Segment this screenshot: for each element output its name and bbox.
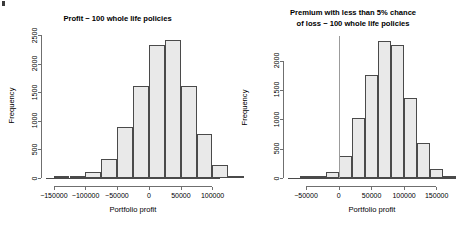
x-axis-tick <box>181 187 182 190</box>
histogram-bar <box>101 159 117 178</box>
histogram-bar <box>430 169 443 178</box>
y-axis-tick-label: 2000 <box>31 56 38 72</box>
y-axis-tick-label: 1500 <box>273 82 280 98</box>
y-axis-tick <box>38 149 41 150</box>
x-axis-tick <box>212 187 213 190</box>
plot-area-premium: 0500100015002000−50000050000100000150000 <box>288 36 456 178</box>
histogram-bar <box>133 86 149 178</box>
histogram-bar <box>391 45 404 178</box>
histogram-bar <box>181 86 197 178</box>
y-axis-tick-label: 2000 <box>273 53 280 69</box>
x-axis-tick-label: 0 <box>147 192 151 199</box>
x-axis-tick <box>306 187 307 190</box>
x-axis-tick-label: −150000 <box>40 192 67 199</box>
x-axis-tick-label: 100000 <box>201 192 224 199</box>
histogram-bar <box>165 40 181 178</box>
chart-title-premium-line1: Premium with less than 5% chance <box>235 8 471 18</box>
histogram-bar <box>352 118 365 178</box>
y-axis-tick-label: 1000 <box>273 112 280 128</box>
y-axis-tick-label: 2500 <box>31 28 38 44</box>
y-axis-tick <box>38 64 41 65</box>
x-axis-tick <box>404 187 405 190</box>
figure-canvas: Profit − 100 whole life policies Frequen… <box>0 0 471 225</box>
y-axis-tick-label: 0 <box>31 176 38 180</box>
y-axis-tick <box>38 121 41 122</box>
x-axis-tick <box>117 187 118 190</box>
bar-baseline <box>46 178 220 179</box>
x-axis-tick-label: −50000 <box>294 192 318 199</box>
chart-title-profit: Profit − 100 whole life policies <box>0 14 235 24</box>
x-axis-tick-label: −50000 <box>105 192 129 199</box>
chart-panel-profit: Profit − 100 whole life policies Frequen… <box>0 0 235 225</box>
histogram-bar <box>404 98 417 178</box>
y-axis-label-premium: Frequency <box>240 89 249 125</box>
histogram-bar <box>149 45 165 178</box>
x-axis-tick-label: −100000 <box>72 192 99 199</box>
y-axis-tick <box>280 149 283 150</box>
x-axis-tick <box>54 187 55 190</box>
x-axis-label-premium: Portfolio profit <box>349 205 396 214</box>
bar-baseline <box>288 178 456 179</box>
x-axis-line <box>54 186 213 187</box>
histogram-bar <box>339 156 352 178</box>
y-axis-tick <box>280 90 283 91</box>
x-axis-tick-label: 50000 <box>171 192 190 199</box>
x-axis-tick <box>149 187 150 190</box>
y-axis-tick <box>280 119 283 120</box>
histogram-bar <box>378 41 391 178</box>
plot-area-profit: 05001000150020002500−150000−100000−50000… <box>46 32 220 178</box>
y-axis-tick <box>280 61 283 62</box>
y-axis-tick-label: 0 <box>273 176 280 180</box>
x-axis-tick <box>339 187 340 190</box>
x-axis-tick-label: 50000 <box>362 192 381 199</box>
y-axis-tick-label: 1000 <box>31 113 38 129</box>
y-axis-line <box>283 61 284 178</box>
y-axis-tick-label: 1500 <box>31 85 38 101</box>
histogram-bar <box>365 75 378 178</box>
x-axis-tick-label: 100000 <box>392 192 415 199</box>
zero-reference-line <box>339 36 340 178</box>
x-axis-label-profit: Portfolio profit <box>110 205 157 214</box>
histogram-bar <box>212 165 228 178</box>
y-axis-label-profit: Frequency <box>7 87 16 123</box>
x-axis-tick <box>85 187 86 190</box>
y-axis-tick-label: 500 <box>31 144 38 156</box>
y-axis-tick <box>38 35 41 36</box>
chart-title-premium-line2: of loss − 100 whole life policies <box>235 19 471 29</box>
chart-panel-premium: Premium with less than 5% chance of loss… <box>235 0 471 225</box>
x-axis-tick <box>371 187 372 190</box>
histogram-bar <box>417 143 430 178</box>
x-axis-tick-label: 0 <box>337 192 341 199</box>
x-axis-tick <box>436 187 437 190</box>
x-axis-tick-label: 150000 <box>425 192 448 199</box>
histogram-bar <box>197 134 213 178</box>
y-axis-tick-label: 500 <box>273 143 280 155</box>
y-axis-line <box>41 35 42 178</box>
histogram-bar <box>117 127 133 178</box>
y-axis-tick <box>38 92 41 93</box>
